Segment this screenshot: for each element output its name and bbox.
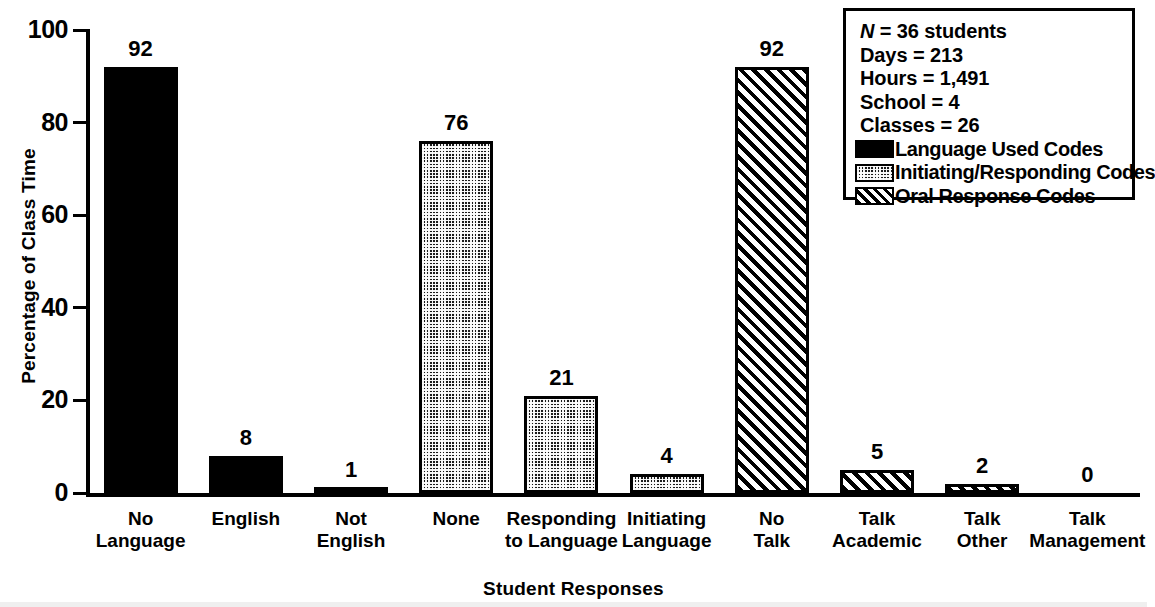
bar[interactable] (209, 456, 283, 493)
bar-value-label: 76 (444, 112, 468, 134)
y-axis-tick (73, 29, 87, 32)
bar-group[interactable]: 92 (104, 30, 178, 493)
x-axis-line (86, 493, 1140, 497)
legend-entry-label: Initiating/Responding Codes (895, 161, 1155, 185)
legend-entry[interactable]: Oral Response Codes (855, 185, 1132, 209)
bar-value-label: 0 (1081, 464, 1093, 486)
bar-value-label: 5 (871, 441, 883, 463)
x-axis-title: Student Responses (0, 578, 1147, 600)
y-axis-tick-label-wrap: 0 (0, 480, 68, 506)
bar-value-label: 4 (660, 445, 672, 467)
y-axis-tick (73, 306, 87, 309)
bar-value-label: 92 (760, 38, 784, 60)
legend-box: N = 36 studentsDays = 213Hours = 1,491Sc… (843, 8, 1135, 200)
legend-entry[interactable]: Initiating/Responding Codes (855, 161, 1132, 185)
x-axis-category-label: Talk Management (1029, 508, 1146, 553)
x-axis-category-label: Responding to Language (503, 508, 620, 553)
bar-value-label: 1 (345, 459, 357, 481)
x-axis-category-label: Initiating Language (608, 508, 725, 553)
y-axis-tick (73, 399, 87, 402)
legend-swatch-hatch-icon (855, 187, 894, 205)
bar[interactable] (840, 470, 914, 493)
y-axis-tick (73, 121, 87, 124)
bar-group[interactable]: 92 (735, 30, 809, 493)
bar-group[interactable]: 21 (524, 30, 598, 493)
bar-group[interactable]: 1 (314, 30, 388, 493)
x-axis-category-label: Talk Other (924, 508, 1041, 553)
bar-value-label: 21 (549, 367, 573, 389)
y-axis-tick (73, 214, 87, 217)
legend-stat-key: School (860, 91, 926, 113)
legend-stat-key: Hours (860, 67, 917, 89)
bar-group[interactable]: 4 (630, 30, 704, 493)
x-axis-category-label: None (398, 508, 515, 530)
legend-stat-key: Classes (860, 114, 935, 136)
x-axis-category-label: No Talk (713, 508, 830, 553)
bar-value-label: 2 (976, 455, 988, 477)
bar[interactable] (945, 484, 1019, 493)
legend-stat-value: = 1,491 (917, 67, 989, 89)
legend-stat-row: Classes = 26 (860, 114, 1132, 138)
bar-value-label: 8 (240, 427, 252, 449)
legend-swatch-dotted-icon (855, 164, 894, 182)
y-axis-tick-label: 100 (8, 17, 68, 42)
legend-stat-row: Days = 213 (860, 44, 1132, 68)
legend-stat-value: = 213 (907, 44, 963, 66)
y-axis-title: Percentage of Class Time (18, 116, 40, 416)
bar-group[interactable]: 76 (419, 30, 493, 493)
x-axis-category-label: English (187, 508, 304, 530)
bar[interactable] (314, 487, 388, 493)
legend-stat-value: = 36 students (874, 20, 1007, 42)
legend-stat-key: N (860, 20, 874, 42)
legend-entry-label: Language Used Codes (895, 138, 1103, 162)
legend-entries: Language Used CodesInitiating/Responding… (860, 138, 1132, 209)
y-axis-tick-label: 0 (8, 480, 68, 505)
legend-stats: N = 36 studentsDays = 213Hours = 1,491Sc… (860, 20, 1132, 138)
x-axis-category-label: Not English (292, 508, 409, 553)
legend-swatch-solid-icon (855, 140, 894, 158)
legend-entry[interactable]: Language Used Codes (855, 138, 1132, 162)
x-axis-category-label: Talk Academic (818, 508, 935, 553)
legend-stat-value: = 26 (935, 114, 980, 136)
bar[interactable] (630, 474, 704, 493)
bar[interactable] (524, 396, 598, 493)
legend-stat-key: Days (860, 44, 907, 66)
bar[interactable] (735, 67, 809, 493)
legend-stat-row: Hours = 1,491 (860, 67, 1132, 91)
y-axis-tick-label-wrap: 100 (0, 17, 68, 43)
legend-stat-row: School = 4 (860, 91, 1132, 115)
legend-stat-value: = 4 (926, 91, 960, 113)
legend-stat-row: N = 36 students (860, 20, 1132, 44)
y-axis-tick (73, 492, 87, 495)
bar[interactable] (419, 141, 493, 493)
scan-edge-artifact (0, 602, 1147, 607)
bar-group[interactable]: 8 (209, 30, 283, 493)
x-axis-category-label: No Language (82, 508, 199, 553)
bar-value-label: 92 (128, 38, 152, 60)
legend-entry-label: Oral Response Codes (895, 185, 1095, 209)
bar[interactable] (104, 67, 178, 493)
